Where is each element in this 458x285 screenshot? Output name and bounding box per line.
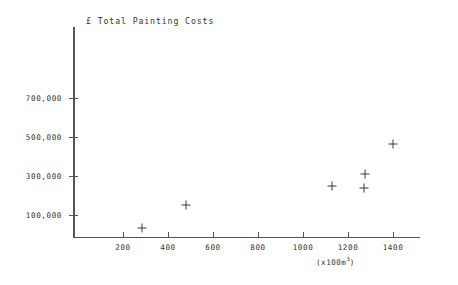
chart-title: £ Total Painting Costs [86,16,214,26]
data-point-marker [389,140,398,149]
x-axis-tick [348,232,349,238]
x-axis-tick [213,232,214,238]
data-point-marker [138,224,147,233]
x-axis-unit-prefix: (x100m [316,258,346,267]
y-axis-tick-label: 700,000 [0,94,62,103]
data-point-marker [182,200,191,209]
x-axis-unit-label: (x100m3) [316,256,355,267]
data-point-marker [359,184,368,193]
x-axis-tick-label: 1200 [338,243,359,252]
x-axis-tick [123,232,124,238]
x-axis-tick-label: 1400 [383,243,404,252]
y-axis-tick-label: 300,000 [0,172,62,181]
y-axis-tick [69,176,78,177]
y-axis-tick [69,215,78,216]
x-axis-tick [168,232,169,238]
x-axis-tick-label: 1000 [293,243,314,252]
x-axis-tick-label: 600 [205,243,221,252]
x-axis-line [73,237,420,238]
x-axis-tick-label: 200 [115,243,131,252]
y-axis-tick [69,137,78,138]
x-axis-tick [303,232,304,238]
x-axis-unit-suffix: ) [350,258,355,267]
x-axis-tick-label: 800 [250,243,266,252]
x-axis-tick [258,232,259,238]
x-axis-tick [393,232,394,238]
y-axis-tick-label: 100,000 [0,211,62,220]
data-point-marker [328,182,337,191]
y-axis-tick-label: 500,000 [0,133,62,142]
x-axis-tick-label: 400 [160,243,176,252]
data-point-marker [360,169,369,178]
y-axis-line [73,27,75,238]
scatter-chart: £ Total Painting Costs 100,000300,000500… [0,0,458,285]
y-axis-tick [69,98,78,99]
